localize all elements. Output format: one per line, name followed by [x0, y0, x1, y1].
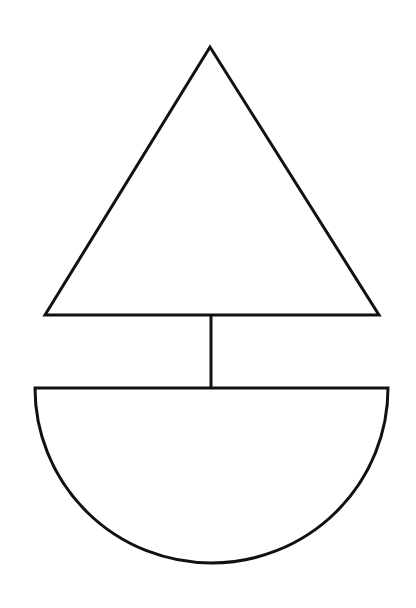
hull-semicircle [35, 388, 388, 563]
sailboat-diagram [0, 0, 416, 608]
sail-triangle [45, 47, 379, 315]
